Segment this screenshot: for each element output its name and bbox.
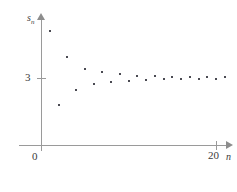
data-point [215, 78, 217, 80]
data-point [49, 30, 51, 32]
data-point [75, 89, 77, 91]
data-point [180, 78, 182, 80]
data-point [101, 71, 103, 73]
scatter-plot-figure: 3 0 20 sn n [0, 0, 237, 192]
data-point [189, 76, 191, 78]
data-point [171, 76, 173, 78]
data-point [84, 68, 86, 70]
data-point [58, 104, 60, 106]
data-point [206, 76, 208, 78]
data-point [110, 81, 112, 83]
data-point [119, 73, 121, 75]
data-point [154, 75, 156, 77]
data-point [66, 56, 68, 58]
data-points-layer [0, 0, 237, 192]
data-point [128, 80, 130, 82]
data-point [93, 83, 95, 85]
data-point [224, 76, 226, 78]
data-point [145, 79, 147, 81]
data-point [198, 78, 200, 80]
data-point [163, 78, 165, 80]
data-point [136, 75, 138, 77]
